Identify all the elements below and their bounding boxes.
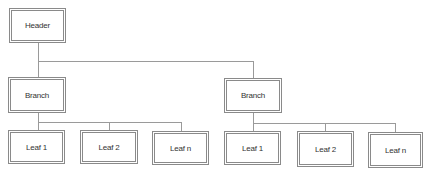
b1-leaf-1-node: Leaf 1 [8, 130, 65, 164]
header-node: Header [9, 8, 66, 43]
header-node-label: Header [25, 21, 50, 30]
b1-leaf-n-label: Leaf n [170, 144, 191, 153]
connector-branch-2-down [253, 113, 254, 131]
branch-node-1-label: Branch [25, 91, 49, 100]
b2-leaf-1-label: Leaf 1 [242, 144, 263, 153]
branch-node-2: Branch [224, 78, 282, 113]
b1-leaf-2-label: Leaf 2 [98, 143, 119, 152]
b2-leaf-1-node: Leaf 1 [224, 131, 281, 165]
branch-node-2-label: Branch [241, 91, 265, 100]
b2-leaf-2-node: Leaf 2 [297, 131, 354, 167]
b2-leaf-2-label: Leaf 2 [315, 145, 336, 154]
connector-b2-leaf-2 [325, 123, 326, 131]
b1-leaf-2-node: Leaf 2 [80, 130, 138, 164]
connector-branch-1-up [38, 61, 39, 77]
b2-leaf-n-label: Leaf n [385, 146, 406, 155]
b1-leaf-n-node: Leaf n [152, 131, 209, 165]
connector-b1-leaf-n [181, 122, 182, 131]
connector-b1-leaf-2 [109, 122, 110, 130]
connector-branch-2-up [253, 61, 254, 78]
connector-header-branches [38, 61, 254, 62]
connector-branch-1-leaves [38, 122, 182, 123]
b2-leaf-n-node: Leaf n [368, 132, 423, 168]
connector-b2-leaf-n [395, 123, 396, 132]
connector-header-down [38, 42, 39, 62]
b1-leaf-1-label: Leaf 1 [26, 143, 47, 152]
branch-node-1: Branch [8, 77, 66, 113]
